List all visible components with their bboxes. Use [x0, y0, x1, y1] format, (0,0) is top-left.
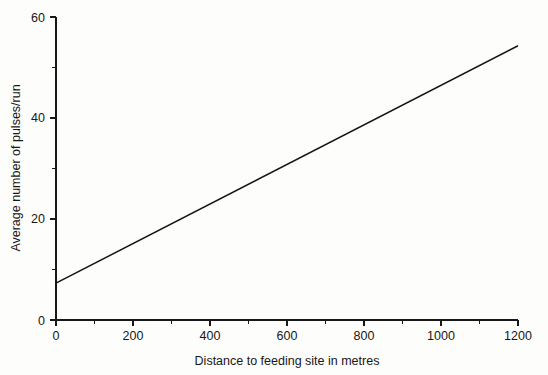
y-tick-label-0: 0 [38, 314, 45, 328]
x-tick-label-1000: 1000 [427, 329, 455, 343]
x-tick-label-1200: 1200 [504, 329, 532, 343]
x-tick-label-800: 800 [354, 329, 375, 343]
x-tick-label-400: 400 [200, 329, 221, 343]
y-tick-label-20: 20 [31, 212, 45, 226]
y-axis-title: Average number of pulses/run [9, 84, 23, 251]
x-tick-label-0: 0 [53, 329, 60, 343]
x-tick-label-600: 600 [277, 329, 298, 343]
y-tick-label-60: 60 [31, 11, 45, 25]
line-chart: 0 20 40 60 0 200 400 600 800 1000 1200 D… [0, 0, 548, 375]
y-tick-label-40: 40 [31, 111, 45, 125]
figure-background [0, 0, 548, 375]
chart-figure: 0 20 40 60 0 200 400 600 800 1000 1200 D… [0, 0, 548, 375]
x-axis-title: Distance to feeding site in metres [195, 354, 380, 368]
x-tick-label-200: 200 [123, 329, 144, 343]
